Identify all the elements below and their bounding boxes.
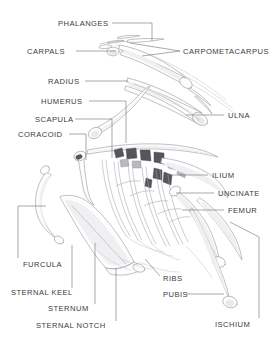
label-sternal-notch: STERNAL NOTCH — [36, 321, 106, 330]
label-radius: RADIUS — [48, 77, 79, 86]
label-ulna: ULNA — [228, 111, 251, 120]
label-ribs: RIBS — [163, 274, 183, 283]
skeleton-illustration: PHALANGES CARPALS CARPOMETACARPUS RADIUS… — [0, 0, 277, 347]
label-carpals: CARPALS — [27, 47, 65, 56]
label-sternum: STERNUM — [48, 304, 89, 313]
label-ilium: ILIUM — [212, 171, 235, 180]
label-carpometacarpus: CARPOMETACARPUS — [183, 47, 269, 56]
label-femur: FEMUR — [228, 206, 257, 215]
bird-skeleton-diagram: PHALANGES CARPALS CARPOMETACARPUS RADIUS… — [0, 0, 277, 347]
leader-ribs — [145, 259, 160, 276]
ulna-radius-bones — [125, 78, 210, 128]
humerus-bone — [86, 86, 150, 141]
label-ischium: ISCHIUM — [215, 320, 250, 329]
label-coracoid: CORACOID — [18, 130, 63, 139]
label-scapula: SCAPULA — [35, 115, 74, 124]
phalanges-bones — [100, 35, 164, 44]
carpals-bones — [100, 45, 120, 56]
label-furcula: FURCULA — [23, 260, 62, 269]
label-pubis: PUBIS — [163, 290, 188, 299]
scapula-bone — [88, 144, 218, 157]
label-sternal-keel: STERNAL KEEL — [11, 288, 73, 297]
sternum-keel — [60, 195, 146, 275]
label-humerus: HUMERUS — [41, 97, 83, 106]
pubis-bone — [190, 208, 239, 310]
label-uncinate: UNCINATE — [218, 189, 260, 198]
label-phalanges: PHALANGES — [58, 19, 108, 28]
furcula-bone — [35, 164, 65, 246]
